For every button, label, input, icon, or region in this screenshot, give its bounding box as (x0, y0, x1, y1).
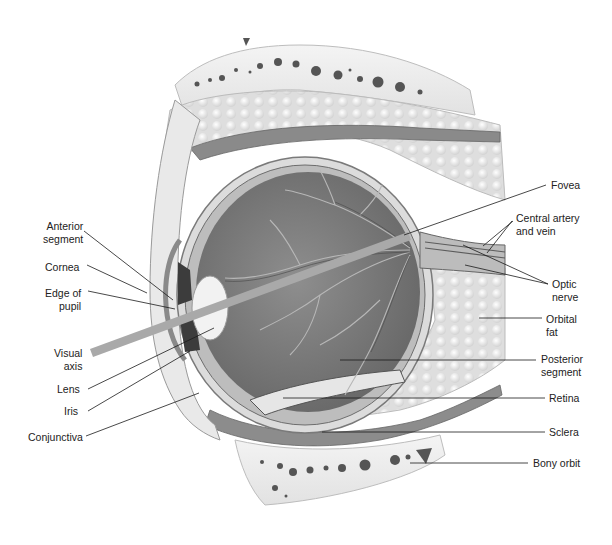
eye-anatomy-illustration (0, 0, 612, 545)
leader-line (86, 393, 199, 436)
label-orbital-fat: Orbital fat (546, 313, 577, 339)
leader-line (87, 265, 147, 293)
label-bony-orbit: Bony orbit (533, 457, 580, 470)
label-lens: Lens (57, 383, 80, 396)
lower-bony-orbit (235, 435, 445, 505)
label-visual-axis: Visual axis (54, 347, 82, 373)
label-optic-nerve: Optic nerve (552, 278, 578, 304)
label-conjunctiva: Conjunctiva (28, 431, 83, 444)
label-edge-of-pupil: Edge of pupil (45, 287, 81, 313)
label-anterior-segment: Anterior segment (43, 220, 83, 246)
label-retina: Retina (549, 392, 579, 405)
label-central-artery-and-vein: Central artery and vein (516, 212, 580, 238)
label-cornea: Cornea (45, 261, 79, 274)
label-fovea: Fovea (551, 179, 580, 192)
label-sclera: Sclera (549, 426, 579, 439)
label-iris: Iris (64, 405, 78, 418)
label-posterior-segment: Posterior segment (541, 353, 583, 379)
leader-line (483, 221, 513, 246)
